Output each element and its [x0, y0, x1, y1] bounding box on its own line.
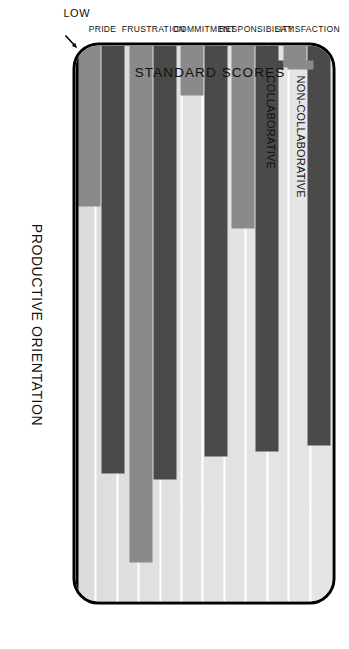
- bar-pride-collaborative: [101, 45, 124, 473]
- rotated-figure-stage: NON-COLLABORATIVE COLLABORATIVE SATISFAC…: [0, 0, 349, 649]
- gridline: [180, 45, 182, 601]
- y-axis-title: STANDARD SCORES: [78, 64, 341, 79]
- legend-label-collaborative: COLLABORATIVE: [264, 75, 276, 168]
- legend-item-collaborative: COLLABORATIVE: [257, 60, 283, 197]
- legend-item-non-collaborative: NON-COLLABORATIVE: [287, 60, 313, 197]
- bar-commitment-collaborative: [204, 45, 227, 456]
- y-axis-low-label: LOW: [63, 6, 90, 18]
- bar-frustration-non-collaborative: [129, 45, 152, 562]
- x-axis-title: PRODUCTIVE ORIENTATION: [28, 0, 44, 649]
- low-origin-arrow-icon: [63, 34, 79, 50]
- bar-chart-figure: NON-COLLABORATIVE COLLABORATIVE SATISFAC…: [0, 0, 349, 649]
- legend: NON-COLLABORATIVE COLLABORATIVE: [257, 60, 313, 197]
- category-label-frustration: FRUSTRATION: [121, 23, 185, 33]
- category-label-pride: PRIDE: [88, 23, 116, 33]
- gridline: [202, 45, 204, 601]
- bar-frustration-collaborative: [153, 45, 176, 479]
- legend-label-non-collaborative: NON-COLLABORATIVE: [294, 75, 306, 197]
- figure-page: NON-COLLABORATIVE COLLABORATIVE SATISFAC…: [0, 0, 349, 649]
- baseline-axis: [75, 45, 78, 601]
